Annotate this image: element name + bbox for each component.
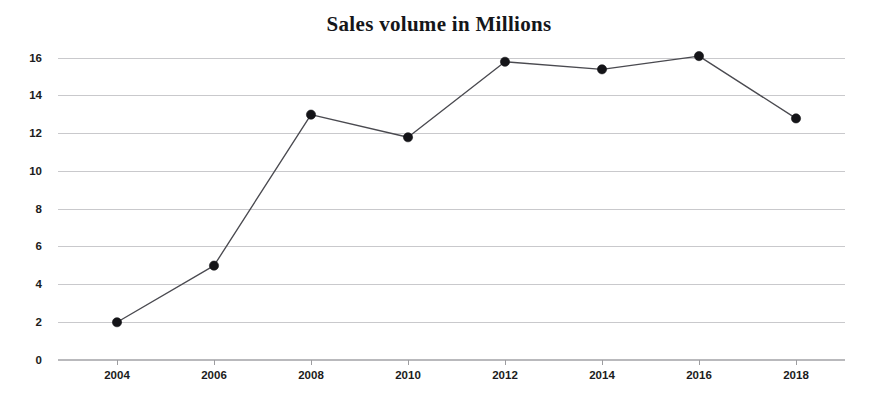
data-point-marker xyxy=(597,65,606,74)
chart-page: Sales volume in Millions 0246810121416 2… xyxy=(0,0,878,404)
y-axis-tick-label: 6 xyxy=(36,240,42,252)
x-axis-tick-label: 2004 xyxy=(104,369,130,381)
y-axis-tick-label: 14 xyxy=(29,89,42,101)
y-axis-tick-label: 8 xyxy=(36,203,43,215)
x-axis-tick-label: 2010 xyxy=(395,369,421,381)
x-axis-tick-labels: 20042006200820102012201420162018 xyxy=(104,369,809,381)
data-point-marker xyxy=(112,318,121,327)
y-axis-tick-label: 12 xyxy=(29,127,42,139)
y-axis-tick-labels: 0246810121416 xyxy=(29,52,42,366)
x-axis-tick-label: 2012 xyxy=(492,369,518,381)
x-axis-tick-label: 2008 xyxy=(298,369,324,381)
y-axis-tick-label: 16 xyxy=(29,52,42,64)
data-point-marker xyxy=(694,52,703,61)
x-axis-tick-label: 2006 xyxy=(201,369,227,381)
data-series-markers xyxy=(112,52,800,327)
x-axis-tick-marks xyxy=(117,360,796,365)
y-axis-tick-label: 2 xyxy=(36,316,42,328)
y-axis-tick-label: 10 xyxy=(29,165,42,177)
y-axis-tick-label: 4 xyxy=(36,278,43,290)
data-point-marker xyxy=(500,57,509,66)
line-chart-plot: 0246810121416 20042006200820102012201420… xyxy=(0,0,878,404)
data-point-marker xyxy=(791,114,800,123)
x-axis-tick-label: 2016 xyxy=(686,369,712,381)
data-point-marker xyxy=(209,261,218,270)
x-axis-tick-label: 2018 xyxy=(783,369,809,381)
data-point-marker xyxy=(306,110,315,119)
y-axis-tick-label: 0 xyxy=(36,354,42,366)
data-point-marker xyxy=(403,133,412,142)
x-axis-tick-label: 2014 xyxy=(589,369,615,381)
